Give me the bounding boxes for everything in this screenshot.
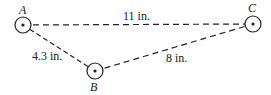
point-c-label: C [248,2,256,14]
point-c-dot [251,22,254,25]
segment-bc-label: 8 in. [166,52,187,64]
point-b-label: B [90,81,97,93]
segment-ac [23,24,253,25]
point-a-dot [21,23,24,26]
point-b-dot [93,69,96,72]
segment-ab [23,25,95,71]
point-a-label: A [19,4,26,16]
segment-ac-label: 11 in. [123,10,150,22]
segment-ab-label: 4.3 in. [32,50,62,62]
